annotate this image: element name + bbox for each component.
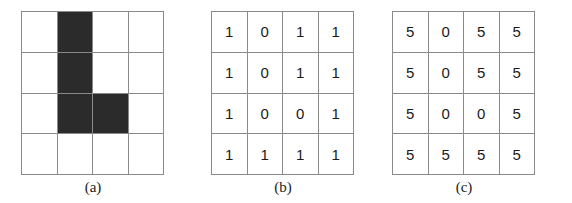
shape-grid-a xyxy=(21,11,164,175)
grid-cell xyxy=(93,12,128,52)
grid-cell: 0 xyxy=(248,53,283,93)
grid-cell: 5 xyxy=(464,12,499,52)
grid-cell: 1 xyxy=(283,134,318,174)
grid-cell: 0 xyxy=(429,53,464,93)
grid-cell xyxy=(58,12,93,52)
panel-b: 1 0 1 1 1 0 1 1 1 0 0 1 1 1 1 1 (b) xyxy=(201,0,365,203)
panel-caption-c: (c) xyxy=(382,178,546,196)
grid-cell: 5 xyxy=(393,53,428,93)
grid-cell xyxy=(93,94,128,134)
grid-cell: 1 xyxy=(212,12,247,52)
grid-cell: 1 xyxy=(319,53,354,93)
grid-cell xyxy=(58,94,93,134)
grid-cell xyxy=(22,94,57,134)
grid-cell xyxy=(129,134,164,174)
grid-cell xyxy=(22,12,57,52)
grid-cell xyxy=(129,94,164,134)
grid-cell: 0 xyxy=(429,12,464,52)
grid-cell xyxy=(129,53,164,93)
grid-cell: 0 xyxy=(248,94,283,134)
grid-cell: 1 xyxy=(319,94,354,134)
panel-caption-b: (b) xyxy=(201,178,365,196)
grid-cell: 0 xyxy=(464,94,499,134)
grid-cell: 5 xyxy=(393,94,428,134)
grid-cell: 1 xyxy=(319,134,354,174)
grid-cell: 5 xyxy=(500,94,535,134)
grid-cell: 5 xyxy=(500,134,535,174)
grid-cell: 1 xyxy=(319,12,354,52)
grid-cell: 5 xyxy=(464,53,499,93)
grid-cell: 0 xyxy=(429,94,464,134)
value-grid-c: 5 0 5 5 5 0 5 5 5 0 0 5 5 5 5 5 xyxy=(392,11,535,175)
grid-cell xyxy=(58,134,93,174)
grid-cell xyxy=(22,134,57,174)
value-grid-b: 1 0 1 1 1 0 1 1 1 0 0 1 1 1 1 1 xyxy=(211,11,354,175)
panel-a: (a) xyxy=(11,0,175,203)
grid-cell: 1 xyxy=(248,134,283,174)
grid-cell: 1 xyxy=(212,94,247,134)
grid-cell: 1 xyxy=(283,12,318,52)
grid-cell xyxy=(129,12,164,52)
panel-caption-a: (a) xyxy=(11,178,175,196)
grid-cell: 0 xyxy=(283,94,318,134)
grid-cell: 5 xyxy=(464,134,499,174)
grid-cell: 1 xyxy=(212,53,247,93)
figure-container: (a) 1 0 1 1 1 0 1 1 1 0 0 1 1 1 1 1 (b) … xyxy=(0,0,572,203)
grid-cell xyxy=(93,134,128,174)
grid-cell: 5 xyxy=(500,12,535,52)
grid-cell: 5 xyxy=(393,134,428,174)
grid-cell xyxy=(58,53,93,93)
grid-cell: 5 xyxy=(500,53,535,93)
grid-cell: 1 xyxy=(283,53,318,93)
grid-cell: 5 xyxy=(429,134,464,174)
grid-cell: 5 xyxy=(393,12,428,52)
grid-cell: 1 xyxy=(212,134,247,174)
grid-cell xyxy=(22,53,57,93)
grid-cell xyxy=(93,53,128,93)
grid-cell: 0 xyxy=(248,12,283,52)
panel-c: 5 0 5 5 5 0 5 5 5 0 0 5 5 5 5 5 (c) xyxy=(382,0,546,203)
